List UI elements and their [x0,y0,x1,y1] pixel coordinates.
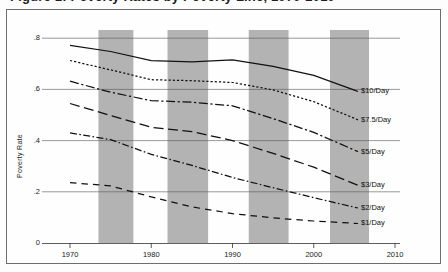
series-label: $2/Day [361,203,385,212]
series-label: $7.5/Day [361,115,391,124]
y-tick-label: .6 [24,84,40,93]
y-tick-label: .8 [24,33,40,42]
y-tick-label: 0 [24,238,40,247]
x-tick-label: 1980 [134,250,168,259]
series-label: $1/Day [361,218,385,227]
figure-container: Figure 1: Poverty Rates by Poverty Line,… [0,0,448,272]
x-tick-label: 2010 [378,250,412,259]
series-label: $5/Day [361,147,385,156]
recession-band [98,30,133,243]
x-tick-label: 2000 [297,250,331,259]
y-axis-title: Poverty Rate [16,134,23,178]
x-tick-label: 1990 [216,250,250,259]
chart-plot-area: $10/Day$7.5/Day$5/Day$3/Day$2/Day$1/Day … [0,0,448,272]
y-tick-label: .4 [24,136,40,145]
series-label: $3/Day [361,180,385,189]
chart-svg [0,0,448,272]
x-tick-label: 1970 [53,250,87,259]
recession-band [249,30,289,243]
recession-bands [98,30,369,243]
series-label: $10/Day [361,86,389,95]
y-tick-label: .2 [24,187,40,196]
